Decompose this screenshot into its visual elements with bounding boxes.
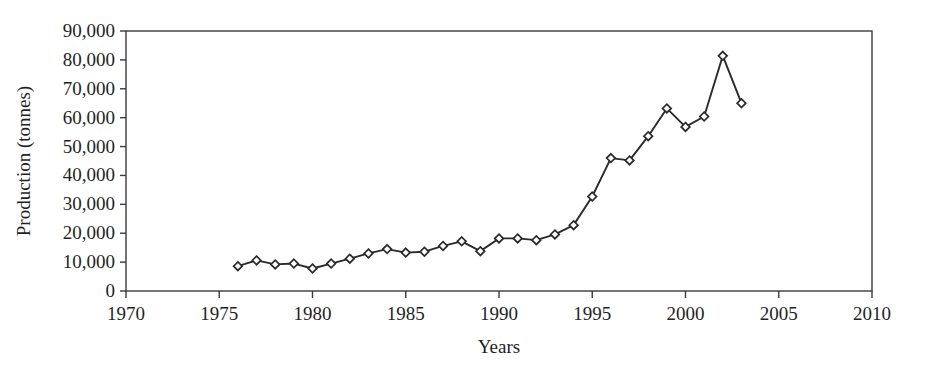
x-tick-label: 1990 [480, 303, 518, 324]
data-point-marker [719, 52, 728, 61]
y-tick-label: 20,000 [63, 222, 115, 243]
x-tick-label: 2010 [853, 303, 891, 324]
y-axis-title: Production (tonnes) [13, 86, 35, 236]
data-point-marker [234, 262, 243, 271]
data-point-marker [383, 245, 392, 254]
y-tick-label: 50,000 [63, 136, 115, 157]
x-tick-label: 1975 [200, 303, 238, 324]
y-tick-label: 30,000 [63, 193, 115, 214]
chart-canvas: 010,00020,00030,00040,00050,00060,00070,… [0, 0, 925, 368]
data-point-marker [439, 242, 448, 251]
x-tick-label: 1980 [294, 303, 332, 324]
x-tick-label: 1995 [573, 303, 611, 324]
data-point-marker [737, 99, 746, 108]
series-group [234, 52, 746, 273]
y-tick-label: 0 [106, 280, 116, 301]
y-tick-label: 90,000 [63, 20, 115, 41]
data-point-marker [607, 154, 616, 163]
data-point-marker [551, 230, 560, 239]
y-tick-label: 80,000 [63, 49, 115, 70]
x-tick-label: 2000 [667, 303, 705, 324]
x-tick-label: 1985 [387, 303, 425, 324]
x-axis-title: Years [478, 336, 520, 357]
x-tick-label: 2005 [760, 303, 798, 324]
y-tick-label: 70,000 [63, 78, 115, 99]
data-point-marker [290, 259, 299, 268]
data-point-marker [252, 256, 261, 265]
data-point-marker [308, 264, 317, 273]
series-line [238, 56, 742, 269]
data-point-marker [401, 248, 410, 257]
y-tick-label: 40,000 [63, 164, 115, 185]
data-point-marker [271, 260, 280, 269]
production-line-chart: 010,00020,00030,00040,00050,00060,00070,… [0, 0, 925, 368]
data-point-marker [532, 236, 541, 245]
y-tick-label: 60,000 [63, 107, 115, 128]
data-point-marker [700, 112, 709, 121]
data-point-marker [420, 247, 429, 256]
data-point-marker [364, 249, 373, 258]
data-point-marker [327, 259, 336, 268]
data-point-marker [457, 237, 466, 246]
y-tick-label: 10,000 [63, 251, 115, 272]
data-point-marker [346, 254, 355, 263]
data-point-marker [513, 234, 522, 243]
x-tick-label: 1970 [107, 303, 145, 324]
plot-frame [126, 31, 872, 291]
